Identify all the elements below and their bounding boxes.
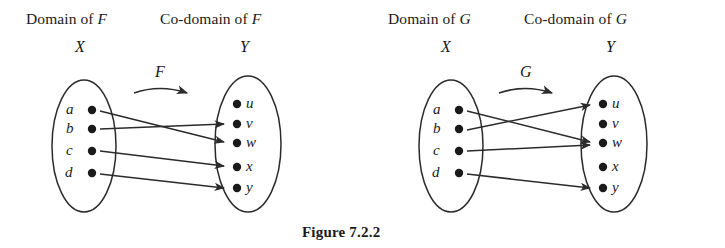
dots-domain-F bbox=[88, 106, 96, 177]
mapping-arrow-G-d-y bbox=[467, 174, 590, 188]
ellipse-Y-F bbox=[215, 76, 281, 212]
ellipse-X-F bbox=[52, 80, 116, 212]
ellipse-Y-G bbox=[581, 76, 647, 212]
dots-codomain-G bbox=[599, 100, 607, 192]
figure-7-2-2: Domain of F Co-domain of F X Y F a b c d… bbox=[0, 0, 725, 248]
function-arrow-F bbox=[134, 89, 187, 94]
mapping-arrow-F-b-v bbox=[100, 124, 224, 129]
function-arrow-G bbox=[499, 89, 552, 94]
mapping-arrow-F-d-y bbox=[100, 174, 224, 188]
dots-domain-G bbox=[455, 106, 463, 177]
diagram-canvas bbox=[0, 0, 725, 248]
mapping-arrow-G-c-w bbox=[467, 145, 590, 151]
mapping-arrow-F-c-x bbox=[100, 151, 224, 166]
dots-codomain-F bbox=[233, 100, 241, 192]
ellipse-X-G bbox=[419, 80, 483, 212]
